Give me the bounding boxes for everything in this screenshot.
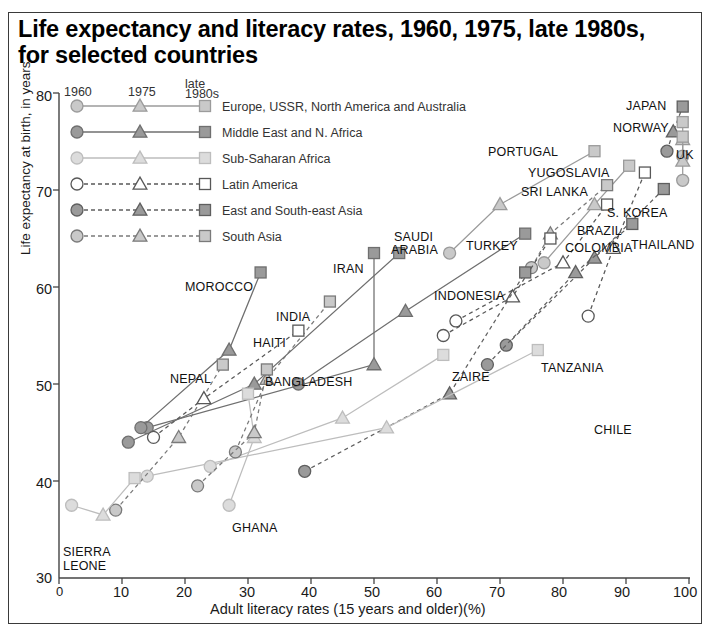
country-label-morocco: MOROCCO [185,280,253,294]
country-label-uk: UK [676,148,694,162]
country-label-norway: NORWAY [613,121,669,135]
country-label-nepal: NEPAL [170,372,211,386]
country-label-yugoslavia: YUGOSLAVIA [528,166,610,180]
country-label-leone: LEONE [63,559,106,573]
country-label-tanzania: TANZANIA [541,361,603,375]
legend-symbols [71,99,211,242]
country-label-zaire: ZAIRE [452,370,490,384]
data-series-layer [66,101,690,520]
country-label-brazil: BRAZIL [577,224,622,238]
country-label-ghana: GHANA [232,521,277,535]
country-label-haiti: HAITI [253,336,286,350]
country-label-sierra: SIERRA [63,545,111,559]
country-label-colombia: COLOMBIA [565,241,633,255]
country-label-saudi: SAUDI [394,230,433,244]
country-label-india: INDIA [276,310,310,324]
country-label-iran: IRAN [333,262,364,276]
country-label-indonesia: INDONESIA [434,289,505,303]
country-label-portugal: PORTUGAL [488,145,558,159]
country-label-turkey: TURKEY [466,239,518,253]
country-label-s-korea: S. KOREA [607,206,668,220]
series-sierra-leone [66,473,141,521]
country-label-chile: CHILE [594,423,632,437]
country-label-thailand: THAILAND [631,238,694,252]
country-label-arabia: ARABIA [391,243,438,257]
country-label-japan: JAPAN [626,99,666,113]
country-label-bangladesh: BANGLADESH [265,375,352,389]
country-label-sri-lanka: SRI LANKA [521,185,588,199]
